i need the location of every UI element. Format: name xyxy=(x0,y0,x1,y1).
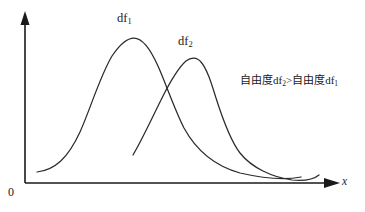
annotation-subscript-1: 1 xyxy=(334,79,338,88)
curve-label-df1-subscript: 1 xyxy=(127,16,131,26)
annotation-part2: 自由度df xyxy=(292,74,334,86)
annotation-part1: 自由度df xyxy=(240,74,282,86)
chi-square-density-figure: 0 x df1 df2 自由度df2>自由度df1 xyxy=(0,0,365,212)
x-axis-label: x xyxy=(342,176,347,188)
plot-canvas xyxy=(0,0,365,212)
curve-label-df1-text: df xyxy=(117,11,127,25)
curve-label-df2-text: df xyxy=(178,34,188,48)
curve-label-df2: df2 xyxy=(178,35,193,48)
curve-label-df2-subscript: 2 xyxy=(188,39,192,49)
y-axis-arrow-icon xyxy=(21,11,30,25)
x-axis-arrow-icon xyxy=(324,178,340,188)
annotation-subscript-2: 2 xyxy=(282,79,286,88)
origin-label: 0 xyxy=(8,186,14,198)
degrees-of-freedom-annotation: 自由度df2>自由度df1 xyxy=(240,75,338,86)
curve-label-df1: df1 xyxy=(117,12,132,25)
density-curve-df1 xyxy=(37,38,301,178)
